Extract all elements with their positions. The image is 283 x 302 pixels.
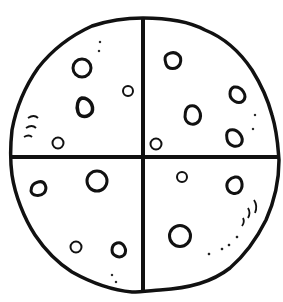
cookie-drawing [0,0,283,302]
cookie-illustration [0,0,283,302]
chips-top-right [151,53,256,150]
chips-bottom-right [170,172,257,255]
chips-top-left [24,41,133,148]
chips-bottom-left [31,171,125,283]
